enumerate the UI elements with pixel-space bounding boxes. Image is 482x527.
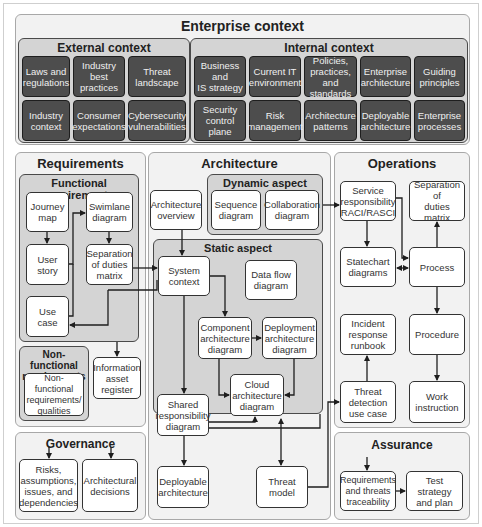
use-case: Use case	[26, 296, 69, 337]
journey-map: Journey map	[26, 192, 69, 232]
risk-management: Risk management	[249, 100, 301, 141]
process: Process	[409, 247, 465, 287]
cybersecurity-vulnerabilities: Cybersecurity vulnerabilities	[128, 100, 186, 141]
deployment-architecture-diagram: Deployment architecture diagram	[262, 317, 317, 359]
deployable-architecture-context: Deployable architecture	[360, 100, 411, 141]
swimlane-diagram: Swimlane diagram	[86, 192, 133, 232]
non-functional-qualities: Non-functional requirements/ qualities	[24, 373, 84, 416]
threat-model: Threat model	[256, 466, 308, 508]
enterprise-architecture: Enterprise architecture	[360, 56, 411, 97]
collaboration-diagram: Collaboration diagram	[265, 190, 319, 230]
operations-title: Operations	[335, 156, 469, 171]
enterprise-processes: Enterprise processes	[414, 100, 465, 141]
business-and-is-strategy: Business and IS strategy	[194, 56, 246, 97]
deployable-architecture: Deployable architecture	[157, 466, 209, 508]
component-architecture-diagram: Component architecture diagram	[198, 317, 252, 359]
industry-best-practices: Industry best practices	[73, 56, 125, 97]
dynamic-aspect-title: Dynamic aspect	[208, 177, 322, 189]
architecture-title: Architecture	[149, 156, 330, 171]
laws-and-regulations: Laws and regulations	[22, 56, 70, 97]
requirements-title: Requirements	[16, 156, 145, 171]
separation-of-duties-matrix-req: Separation of duties matrix	[86, 244, 133, 285]
separation-of-duties-matrix-ops: Separation of duties matrix	[409, 181, 465, 221]
data-flow-diagram: Data flow diagram	[245, 260, 297, 300]
static-aspect-title: Static aspect	[154, 242, 322, 254]
system-context: System context	[158, 256, 210, 296]
consumer-expectations: Consumer expectations	[73, 100, 125, 141]
risks-assumptions-issues-dependencies: Risks, assumptions, issues, and dependen…	[19, 459, 78, 512]
incident-response-runbook: Incident response runbook	[340, 314, 396, 355]
external-context-title: External context	[19, 41, 189, 55]
architectural-decisions: Architectural decisions	[82, 459, 138, 512]
sequence-diagram: Sequence diagram	[211, 190, 261, 230]
industry-context: Industry context	[22, 100, 70, 141]
requirements-threats-traceability: Requirements and threats traceability	[340, 471, 396, 511]
governance-title: Governance	[16, 437, 145, 451]
shared-responsibility-diagram: Shared responsibility diagram	[157, 394, 209, 436]
architecture-overview: Architecture overview	[150, 190, 202, 230]
work-instruction: Work instruction	[409, 381, 465, 423]
architecture-patterns: Architecture patterns	[304, 100, 357, 141]
statechart-diagrams: Statechart diagrams	[340, 247, 396, 287]
security-control-plane: Security control plane	[194, 100, 246, 141]
information-asset-register: Information asset register	[93, 357, 141, 399]
user-story: User story	[26, 244, 69, 285]
threat-detection-use-case: Threat detection use case	[340, 381, 396, 423]
current-it-environment: Current IT environment	[249, 56, 301, 97]
cloud-architecture-diagram: Cloud architecture diagram	[230, 374, 284, 416]
service-responsibility-raci: Service responsibility RACI/RASCI	[340, 181, 396, 221]
guiding-principles: Guiding principles	[414, 56, 465, 97]
assurance-title: Assurance	[335, 438, 469, 452]
procedure: Procedure	[409, 314, 465, 355]
threat-landscape: Threat landscape	[128, 56, 186, 97]
enterprise-context-title: Enterprise context	[16, 18, 469, 34]
test-strategy-and-plan: Test strategy and plan	[406, 471, 463, 511]
policies-practices-standards: Policies, practices, and standards	[304, 56, 357, 97]
internal-context-title: Internal context	[191, 41, 467, 55]
